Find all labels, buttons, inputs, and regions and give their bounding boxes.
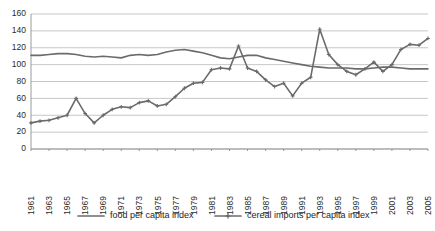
x-axis-tick-label: 1967 xyxy=(80,196,90,215)
series-marker xyxy=(56,116,60,120)
y-axis-tick-label: 160 xyxy=(12,8,26,18)
y-axis-tick-labels: 020406080100120140160 xyxy=(12,8,26,153)
y-axis-tick-label: 60 xyxy=(17,93,27,103)
axis-lines xyxy=(31,14,428,151)
series-marker xyxy=(29,121,33,125)
legend-item-cereal-imports-per-capita-index[interactable]: cereal imports per capita index xyxy=(215,210,370,220)
series-line xyxy=(31,29,428,123)
legend-item-food-per-capita-index[interactable]: food per capita index xyxy=(78,210,194,220)
x-axis-tick-label: 1963 xyxy=(44,196,54,215)
series-marker xyxy=(38,119,42,123)
x-axis-tick-label: 1965 xyxy=(62,196,72,215)
series-marker xyxy=(119,105,123,109)
x-axis-tick-label: 1983 xyxy=(225,196,235,215)
x-axis-tick-label: 1969 xyxy=(98,196,108,215)
x-axis-tick-labels: 1961196319651967196919711973197519771979… xyxy=(26,196,433,215)
y-axis-tick-label: 20 xyxy=(17,126,27,136)
x-axis-tick-label: 2001 xyxy=(387,196,397,215)
legend-label: cereal imports per capita index xyxy=(247,210,370,220)
x-axis-tick-label: 1999 xyxy=(369,196,379,215)
series-2 xyxy=(29,27,430,124)
y-axis-tick-label: 0 xyxy=(21,143,26,153)
y-axis-tick-label: 40 xyxy=(17,110,27,120)
x-axis-tick-label: 1981 xyxy=(207,196,217,215)
y-axis-tick-label: 100 xyxy=(12,59,26,69)
x-axis-tick-label: 2005 xyxy=(423,196,433,215)
data-series-group xyxy=(29,27,430,124)
y-axis-tick-label: 140 xyxy=(12,25,26,35)
chart-container: 020406080100120140160 196119631965196719… xyxy=(0,0,435,231)
line-chart: 020406080100120140160 196119631965196719… xyxy=(0,0,435,231)
y-axis-tick-label: 80 xyxy=(17,76,27,86)
x-axis-tick-label: 1961 xyxy=(26,196,36,215)
legend-label: food per capita index xyxy=(110,210,194,220)
y-axis-tick-label: 120 xyxy=(12,42,26,52)
x-axis-tick-label: 2003 xyxy=(405,196,415,215)
gridlines-group xyxy=(31,14,428,149)
series-marker xyxy=(219,66,223,70)
series-marker xyxy=(47,118,51,122)
